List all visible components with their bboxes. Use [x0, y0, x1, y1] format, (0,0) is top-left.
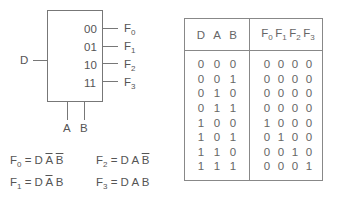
table-row: 1001000: [185, 115, 323, 130]
table-row: 1100010: [185, 145, 323, 160]
code-00: 00: [84, 24, 97, 36]
code-01: 01: [84, 42, 97, 54]
output-label-f1: F1: [124, 41, 135, 55]
table-row: 1010100: [185, 130, 323, 145]
header-a: A: [209, 19, 225, 51]
output-line-f1: [103, 46, 118, 47]
output-line-f3: [103, 81, 118, 82]
table-header-row: D A B F0 F1 F2 F3: [185, 19, 323, 51]
code-10: 10: [84, 60, 97, 72]
header-f3: F3: [302, 19, 316, 51]
table-row: 1110001: [185, 159, 323, 174]
select-label-b: B: [80, 123, 88, 135]
table-row: 0000000: [185, 57, 323, 72]
input-line-d: [33, 60, 47, 61]
equation-f0: F0 = D A B: [10, 155, 63, 169]
header-b: B: [225, 19, 241, 51]
select-line-b: [84, 102, 85, 120]
select-label-a: A: [63, 123, 71, 135]
code-11: 11: [84, 78, 96, 90]
output-line-f2: [103, 63, 118, 64]
truth-table: D A B F0 F1 F2 F3 0000000 0010000 010000…: [184, 18, 323, 181]
equation-f3: F3 = D A B: [96, 177, 149, 191]
equation-f2: F2 = D A B: [96, 155, 149, 169]
output-label-f2: F2: [124, 59, 135, 73]
equation-f1: F1 = D A B: [10, 177, 63, 191]
output-label-f3: F3: [124, 77, 135, 91]
select-line-a: [67, 102, 68, 120]
table-row: 0110000: [185, 101, 323, 116]
header-f0: F0: [260, 19, 274, 51]
table-row: 0010000: [185, 72, 323, 87]
header-f2: F2: [288, 19, 302, 51]
input-label-d: D: [20, 55, 28, 67]
header-d: D: [193, 19, 209, 51]
header-f1: F1: [274, 19, 288, 51]
table-row: 0100000: [185, 86, 323, 101]
output-line-f0: [103, 28, 118, 29]
output-label-f0: F0: [124, 23, 135, 37]
